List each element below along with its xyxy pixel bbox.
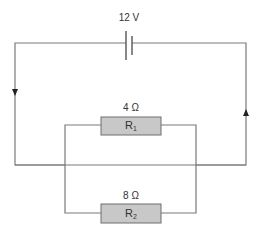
r1-name-label: R1 <box>125 120 137 132</box>
r1-value-label: 4 Ω <box>123 103 139 113</box>
outer-wire-top-left <box>15 43 126 165</box>
inner-wire-r1-left <box>65 125 101 213</box>
arrow-down-icon <box>12 89 18 96</box>
outer-wire-top-right <box>132 43 246 165</box>
battery-label: 12 V <box>119 13 140 23</box>
r2-value-label: 8 Ω <box>123 191 139 201</box>
r2-name-label: R2 <box>125 208 137 220</box>
inner-wire-r1-right <box>161 125 196 213</box>
arrow-up-icon <box>243 109 249 116</box>
